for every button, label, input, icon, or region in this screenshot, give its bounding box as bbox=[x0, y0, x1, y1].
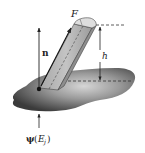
psi-close-paren: ) bbox=[47, 134, 51, 144]
height-label: h bbox=[102, 51, 108, 61]
psi-open-paren: ( bbox=[34, 134, 38, 144]
psi-label: ψ ( E j ) bbox=[26, 134, 51, 146]
base-point bbox=[37, 87, 41, 91]
surface-element bbox=[13, 68, 135, 111]
normal-label: n bbox=[42, 48, 49, 58]
force-label: F bbox=[70, 8, 79, 19]
flux-diagram: F n h ψ ( E j ) bbox=[0, 0, 145, 153]
